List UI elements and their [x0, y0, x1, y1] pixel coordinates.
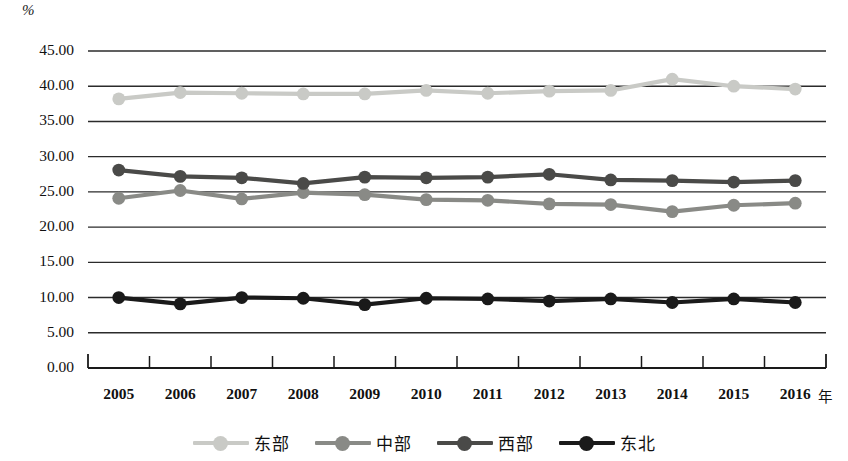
x-axis-tick-label: 2008: [273, 385, 333, 403]
data-point: [358, 188, 371, 201]
legend-dot: [579, 436, 594, 451]
data-point: [604, 293, 617, 306]
legend-dot: [457, 436, 472, 451]
data-point: [235, 291, 248, 304]
data-point: [297, 88, 310, 101]
data-point: [235, 87, 248, 100]
legend-marker-icon: [193, 435, 249, 451]
data-point: [235, 171, 248, 184]
data-point: [112, 93, 125, 106]
data-point: [420, 171, 433, 184]
data-point: [235, 193, 248, 206]
data-point: [297, 177, 310, 190]
x-axis-tick-label: 2016: [765, 385, 825, 403]
legend-marker-icon: [437, 435, 493, 451]
legend-label: 中部: [376, 430, 411, 455]
x-axis-tick-label: 2015: [704, 385, 764, 403]
data-point: [112, 291, 125, 304]
data-point: [112, 192, 125, 205]
data-point: [727, 199, 740, 212]
data-point: [543, 85, 556, 98]
line-chart: % 0.005.0010.0015.0020.0025.0030.0035.00…: [0, 0, 848, 461]
legend-label: 西部: [498, 430, 533, 455]
data-point: [174, 298, 187, 311]
data-point: [420, 84, 433, 97]
data-point: [604, 84, 617, 97]
data-point: [481, 171, 494, 184]
series-line: [119, 298, 796, 305]
series-3: [112, 291, 801, 311]
data-point: [789, 83, 802, 96]
data-point: [420, 292, 433, 305]
data-point: [727, 293, 740, 306]
legend-item-1[interactable]: 中部: [315, 430, 411, 455]
x-axis-unit-label: 年: [818, 385, 832, 406]
data-point: [543, 168, 556, 181]
series-line: [119, 79, 796, 99]
legend-item-2[interactable]: 西部: [437, 430, 533, 455]
data-point: [174, 184, 187, 197]
data-point: [297, 292, 310, 305]
data-point: [358, 298, 371, 311]
x-axis-tick-label: 2006: [150, 385, 210, 403]
data-point: [481, 87, 494, 100]
data-point: [604, 174, 617, 187]
legend-item-0[interactable]: 东部: [193, 430, 289, 455]
data-point: [481, 194, 494, 207]
x-axis-tick-label: 2014: [642, 385, 702, 403]
data-point: [174, 170, 187, 183]
data-point: [727, 80, 740, 93]
data-point: [358, 88, 371, 101]
x-axis-tick-label: 2011: [458, 385, 518, 403]
legend-dot: [213, 436, 228, 451]
x-axis-tick-label: 2005: [89, 385, 149, 403]
series-line: [119, 170, 796, 183]
x-axis-tick-label: 2009: [335, 385, 395, 403]
data-point: [666, 205, 679, 218]
data-point: [789, 296, 802, 309]
series-line: [119, 190, 796, 211]
data-point: [666, 174, 679, 187]
data-point: [604, 198, 617, 211]
data-point: [481, 293, 494, 306]
chart-legend: 东部中部西部东北: [0, 430, 848, 455]
legend-label: 东部: [254, 430, 289, 455]
series-2: [112, 164, 801, 190]
legend-marker-icon: [559, 435, 615, 451]
legend-dot: [335, 436, 350, 451]
x-axis-tick-label: 2007: [212, 385, 272, 403]
legend-item-3[interactable]: 东北: [559, 430, 655, 455]
data-point: [666, 73, 679, 86]
x-axis-tick-label: 2013: [581, 385, 641, 403]
legend-marker-icon: [315, 435, 371, 451]
data-point: [174, 86, 187, 99]
data-point: [543, 295, 556, 308]
data-point: [666, 296, 679, 309]
legend-label: 东北: [620, 430, 655, 455]
data-point: [420, 193, 433, 206]
data-point: [112, 164, 125, 177]
data-point: [789, 174, 802, 187]
x-axis-tick-label: 2010: [396, 385, 456, 403]
series-0: [112, 73, 801, 106]
data-point: [789, 197, 802, 210]
x-axis-tick-label: 2012: [519, 385, 579, 403]
data-point: [727, 176, 740, 189]
data-point: [543, 197, 556, 210]
series-1: [112, 184, 801, 218]
data-point: [358, 171, 371, 184]
